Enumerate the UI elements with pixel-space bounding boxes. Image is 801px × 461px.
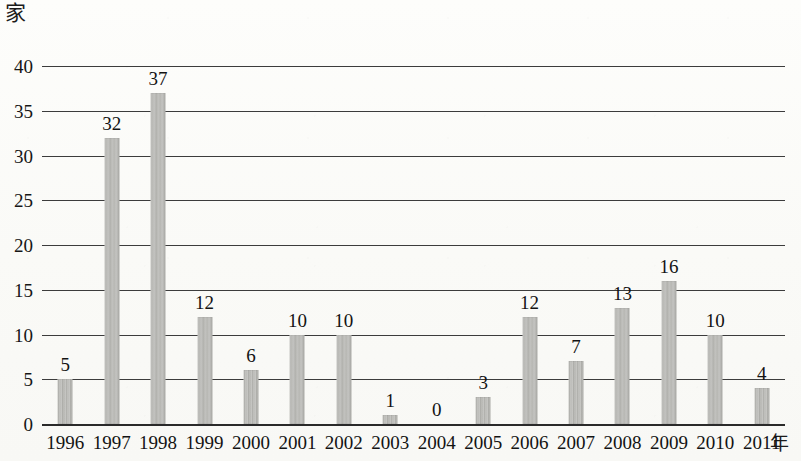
bar xyxy=(383,415,398,424)
x-axis-tick-label: 2007 xyxy=(553,433,599,452)
bar-group: 7 xyxy=(553,66,599,424)
bar xyxy=(243,370,258,424)
y-axis-tick-label: 0 xyxy=(24,415,34,434)
bar-group: 10 xyxy=(274,66,320,424)
y-axis-tick-label: 25 xyxy=(14,191,33,210)
x-axis-tick-label: 2006 xyxy=(506,433,552,452)
y-axis-tick-label: 35 xyxy=(14,101,33,120)
bar-group: 32 xyxy=(88,66,134,424)
y-axis-tick-label: 40 xyxy=(14,57,33,76)
y-axis-tick-label: 15 xyxy=(14,280,33,299)
x-axis-tick-label: 2002 xyxy=(321,433,367,452)
bar xyxy=(661,281,676,424)
bar-value-label: 4 xyxy=(757,364,767,383)
bar-group: 1 xyxy=(367,66,413,424)
bar-value-label: 6 xyxy=(246,346,256,365)
x-axis-tick-label: 1999 xyxy=(181,433,227,452)
x-axis-tick-label: 1998 xyxy=(135,433,181,452)
bar xyxy=(569,361,584,424)
bar-value-label: 10 xyxy=(288,311,307,330)
bar xyxy=(104,138,119,424)
x-axis-tick-label: 1996 xyxy=(42,433,88,452)
bar xyxy=(476,397,491,424)
bar-group: 16 xyxy=(646,66,692,424)
bar xyxy=(290,335,305,425)
x-axis-tick-label: 2009 xyxy=(646,433,692,452)
bar-value-label: 12 xyxy=(520,293,539,312)
x-axis-tick-label: 1997 xyxy=(88,433,134,452)
y-axis-tick-label: 20 xyxy=(14,236,33,255)
bar-group: 3 xyxy=(460,66,506,424)
bar xyxy=(754,388,769,424)
bar-value-label: 10 xyxy=(334,311,353,330)
x-axis-baseline: 0 xyxy=(42,424,785,426)
bar-group: 10 xyxy=(692,66,738,424)
bar-group: 10 xyxy=(321,66,367,424)
bar-group: 5 xyxy=(42,66,88,424)
bar-group: 13 xyxy=(599,66,645,424)
y-axis-tick-label: 5 xyxy=(24,370,34,389)
x-axis-tick-label: 2008 xyxy=(599,433,645,452)
bar-group: 12 xyxy=(181,66,227,424)
bar-value-label: 3 xyxy=(478,373,488,392)
x-axis-labels: 1996199719981999200020012002200320042005… xyxy=(42,433,785,457)
bar xyxy=(708,335,723,425)
bar xyxy=(58,379,73,424)
x-axis-tick-label: 2000 xyxy=(228,433,274,452)
bar xyxy=(615,308,630,424)
x-axis-tick-label: 2010 xyxy=(692,433,738,452)
bar-value-label: 12 xyxy=(195,293,214,312)
y-axis-unit-label: 家 xyxy=(5,3,26,24)
bar-value-label: 16 xyxy=(659,257,678,276)
bar xyxy=(336,335,351,425)
x-axis-tick-label: 2005 xyxy=(460,433,506,452)
y-axis-tick-label: 30 xyxy=(14,146,33,165)
bar-value-label: 5 xyxy=(60,355,70,374)
bar xyxy=(151,93,166,424)
bar-group: 6 xyxy=(228,66,274,424)
bar xyxy=(522,317,537,424)
bar-value-label: 0 xyxy=(432,400,442,419)
bar-group: 12 xyxy=(506,66,552,424)
bar-chart: 家 年 051015202530354053237126101010312713… xyxy=(0,0,801,461)
bar-group: 0 xyxy=(414,66,460,424)
bar-value-label: 37 xyxy=(149,69,168,88)
bar-group: 37 xyxy=(135,66,181,424)
bar-value-label: 7 xyxy=(571,337,581,356)
x-axis-tick-label: 2003 xyxy=(367,433,413,452)
plot-area: 0510152025303540532371261010103127131610… xyxy=(42,66,785,424)
bar-value-label: 13 xyxy=(613,284,632,303)
bar-value-label: 32 xyxy=(102,114,121,133)
bar-value-label: 1 xyxy=(386,391,396,410)
x-axis-tick-label: 2011 xyxy=(739,433,785,452)
bar-value-label: 10 xyxy=(706,311,725,330)
x-axis-tick-label: 2004 xyxy=(414,433,460,452)
y-axis-tick-label: 10 xyxy=(14,325,33,344)
bar xyxy=(197,317,212,424)
bar-group: 4 xyxy=(739,66,785,424)
x-axis-tick-label: 2001 xyxy=(274,433,320,452)
